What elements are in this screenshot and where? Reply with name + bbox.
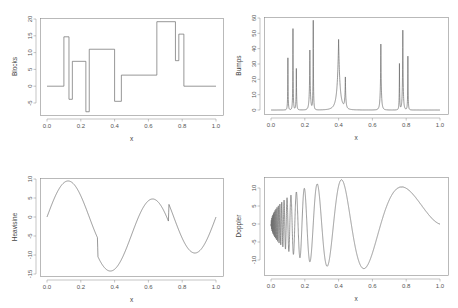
- panel-bumps: 0.00.20.40.60.81.0x0102030405060Bumps: [235, 14, 449, 141]
- x-axis-label: x: [130, 135, 134, 142]
- y-tick-label: -5: [27, 233, 33, 239]
- panel-blocks: 0.00.20.40.60.81.0x-505101520Blocks: [11, 15, 224, 142]
- y-tick-label: -15: [27, 269, 33, 278]
- x-tick-label: 1.0: [212, 284, 221, 290]
- series-line-blocks: [47, 22, 216, 112]
- x-tick-label: 0.2: [301, 122, 310, 128]
- y-axis: -505101520: [27, 15, 36, 106]
- x-tick-label: 0.0: [267, 283, 276, 289]
- x-tick-label: 0.6: [144, 123, 153, 129]
- x-tick-label: 0.2: [77, 123, 86, 129]
- x-tick-label: 0.2: [301, 283, 310, 289]
- y-tick-label: 0: [251, 222, 257, 226]
- y-axis: -10-50510: [251, 184, 260, 264]
- panel-doppler: 0.00.20.40.60.81.0x-10-50510Doppler: [235, 178, 449, 303]
- y-tick-label: -5: [27, 100, 33, 106]
- x-tick-label: 0.8: [178, 284, 187, 290]
- x-axis-label: x: [130, 296, 134, 303]
- y-tick-label: 5: [251, 204, 257, 208]
- x-tick-label: 0.8: [402, 283, 411, 289]
- y-tick-label: 5: [27, 196, 33, 200]
- y-tick-label: 5: [27, 67, 33, 71]
- x-tick-label: 0.4: [110, 284, 119, 290]
- x-tick-label: 0.8: [402, 122, 411, 128]
- series-line-bumps: [271, 20, 440, 110]
- y-tick-label: 10: [27, 175, 33, 182]
- y-tick-label: 20: [27, 15, 33, 22]
- y-tick-label: 10: [251, 184, 257, 191]
- y-tick-label: 10: [251, 91, 257, 98]
- x-tick-label: 0.2: [77, 284, 86, 290]
- series-line-doppler: [271, 180, 440, 269]
- y-axis: -15-10-50510: [27, 175, 36, 278]
- x-axis: 0.00.20.40.60.81.0: [267, 118, 445, 128]
- x-tick-label: 0.6: [144, 284, 153, 290]
- x-axis: 0.00.20.40.60.81.0: [43, 119, 221, 129]
- plot-frame: [41, 179, 224, 277]
- x-axis-label: x: [354, 134, 358, 141]
- plot-frame: [41, 19, 224, 116]
- y-axis-label: Blocks: [11, 56, 18, 76]
- x-tick-label: 0.0: [43, 123, 52, 129]
- x-tick-label: 0.0: [43, 284, 52, 290]
- x-tick-label: 0.8: [178, 123, 187, 129]
- y-axis: 0102030405060: [251, 14, 260, 112]
- y-tick-label: 50: [251, 29, 257, 36]
- panel-heavisine: 0.00.20.40.60.81.0x-15-10-50510Heavisine: [11, 175, 224, 303]
- y-axis-label: Heavisine: [11, 212, 18, 241]
- y-tick-label: 20: [251, 75, 257, 82]
- y-tick-label: 0: [251, 108, 257, 112]
- y-tick-label: -10: [27, 250, 33, 259]
- x-tick-label: 0.0: [267, 122, 276, 128]
- x-tick-label: 0.4: [334, 283, 343, 289]
- y-tick-label: 30: [251, 60, 257, 67]
- y-tick-label: 60: [251, 14, 257, 21]
- x-axis: 0.00.20.40.60.81.0: [267, 279, 445, 289]
- x-tick-label: 0.4: [110, 123, 119, 129]
- x-tick-label: 1.0: [212, 123, 221, 129]
- y-axis-label: Bumps: [235, 55, 243, 76]
- y-tick-label: 15: [27, 32, 33, 39]
- x-axis-label: x: [354, 295, 358, 302]
- y-axis-label: Doppler: [235, 214, 243, 238]
- x-axis: 0.00.20.40.60.81.0: [43, 280, 221, 290]
- x-tick-label: 1.0: [436, 122, 445, 128]
- series-line-heavisine: [47, 181, 216, 271]
- y-tick-label: -10: [251, 255, 257, 264]
- y-tick-label: -5: [251, 239, 257, 245]
- y-tick-label: 40: [251, 45, 257, 52]
- x-tick-label: 0.4: [334, 122, 343, 128]
- x-tick-label: 1.0: [436, 283, 445, 289]
- y-tick-label: 0: [27, 84, 33, 88]
- x-tick-label: 0.6: [368, 122, 377, 128]
- y-tick-label: 0: [27, 215, 33, 219]
- x-tick-label: 0.6: [368, 283, 377, 289]
- figure-canvas: 0.00.20.40.60.81.0x-505101520Blocks 0.00…: [0, 0, 458, 308]
- y-tick-label: 10: [27, 49, 33, 56]
